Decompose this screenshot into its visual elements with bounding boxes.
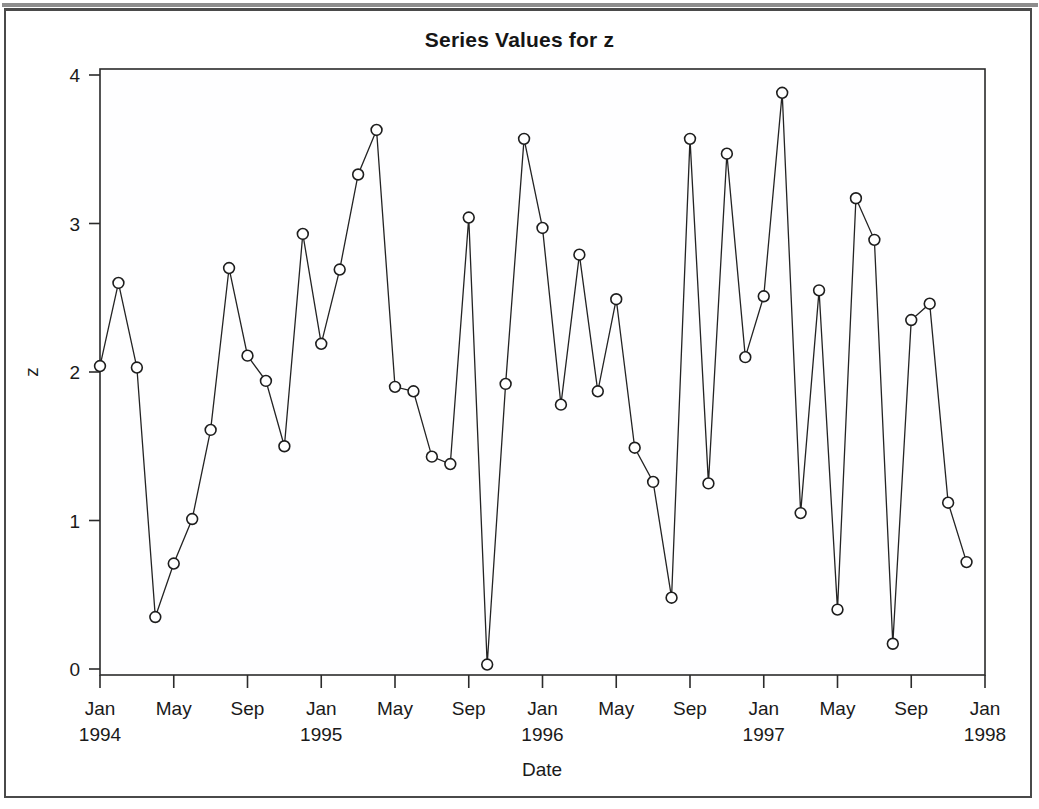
data-point bbox=[113, 278, 124, 289]
x-tick-label-month: May bbox=[598, 698, 634, 719]
data-point bbox=[482, 659, 493, 670]
data-point bbox=[95, 361, 106, 372]
data-point bbox=[537, 223, 548, 234]
data-point bbox=[131, 362, 142, 373]
data-point bbox=[887, 638, 898, 649]
x-tick-label-month: Jan bbox=[306, 698, 337, 719]
y-tick-label: 1 bbox=[69, 511, 80, 532]
data-point bbox=[150, 612, 161, 623]
data-point bbox=[353, 169, 364, 180]
data-point bbox=[574, 249, 585, 260]
data-point bbox=[408, 386, 419, 397]
data-point bbox=[297, 228, 308, 239]
data-point bbox=[316, 338, 327, 349]
data-point bbox=[740, 352, 751, 363]
y-tick-label: 3 bbox=[69, 214, 80, 235]
data-point bbox=[795, 508, 806, 519]
x-tick-label-month: May bbox=[156, 698, 192, 719]
data-point bbox=[629, 442, 640, 453]
x-tick-label-month: Sep bbox=[231, 698, 265, 719]
data-point bbox=[556, 399, 567, 410]
data-point bbox=[205, 425, 216, 436]
data-point bbox=[666, 592, 677, 603]
data-point bbox=[187, 514, 198, 525]
y-tick-label: 2 bbox=[69, 362, 80, 383]
plot-frame bbox=[100, 69, 985, 675]
x-tick-label-year: 1996 bbox=[521, 724, 563, 745]
data-point bbox=[611, 294, 622, 305]
x-tick-label-month: Sep bbox=[673, 698, 707, 719]
x-tick-label-month: Sep bbox=[452, 698, 486, 719]
data-point bbox=[371, 125, 382, 136]
data-point bbox=[758, 291, 769, 302]
data-point bbox=[261, 376, 272, 387]
data-point bbox=[390, 381, 401, 392]
x-tick-label-year: 1997 bbox=[743, 724, 785, 745]
data-point bbox=[334, 264, 345, 275]
x-axis-title: Date bbox=[522, 759, 562, 780]
x-tick-label-month: May bbox=[820, 698, 856, 719]
data-point bbox=[519, 133, 530, 144]
y-axis-title: z bbox=[21, 367, 42, 377]
data-point bbox=[426, 451, 437, 462]
y-axis-tick-labels: 01234 bbox=[69, 65, 80, 680]
data-point bbox=[685, 133, 696, 144]
data-point bbox=[851, 193, 862, 204]
x-tick-label-year: 1994 bbox=[79, 724, 122, 745]
data-point bbox=[961, 557, 972, 568]
chart-figure: Series Values for z 01234 Jan1994MaySepJ… bbox=[0, 0, 1039, 809]
x-tick-label-month: Jan bbox=[748, 698, 779, 719]
data-point bbox=[463, 212, 474, 223]
x-tick-label-year: 1998 bbox=[964, 724, 1006, 745]
x-tick-label-month: Jan bbox=[527, 698, 558, 719]
data-point bbox=[703, 478, 714, 489]
data-point bbox=[648, 476, 659, 487]
x-tick-label-month: Jan bbox=[970, 698, 1001, 719]
x-axis-ticks bbox=[100, 675, 985, 688]
data-point bbox=[242, 350, 253, 361]
data-point bbox=[924, 298, 935, 309]
data-point bbox=[500, 378, 511, 389]
y-tick-label: 0 bbox=[69, 659, 80, 680]
data-point bbox=[279, 441, 290, 452]
data-point bbox=[168, 558, 179, 569]
data-point bbox=[777, 87, 788, 98]
x-tick-label-month: Sep bbox=[894, 698, 928, 719]
y-tick-label: 4 bbox=[69, 65, 80, 86]
data-point bbox=[721, 148, 732, 159]
data-point bbox=[592, 386, 603, 397]
data-point bbox=[445, 459, 456, 470]
x-tick-label-month: May bbox=[377, 698, 413, 719]
data-point bbox=[943, 497, 954, 508]
data-point bbox=[869, 234, 880, 245]
data-point bbox=[832, 604, 843, 615]
data-point bbox=[224, 263, 235, 274]
chart-screenshot: Series Values for z 01234 Jan1994MaySepJ… bbox=[0, 0, 1039, 809]
plot-canvas: 01234 Jan1994MaySepJan1995MaySepJan1996M… bbox=[0, 0, 1039, 809]
data-point bbox=[814, 285, 825, 296]
x-tick-label-year: 1995 bbox=[300, 724, 342, 745]
x-axis-tick-labels: Jan1994MaySepJan1995MaySepJan1996MaySepJ… bbox=[79, 698, 1006, 745]
x-tick-label-month: Jan bbox=[85, 698, 116, 719]
data-point bbox=[906, 315, 917, 326]
